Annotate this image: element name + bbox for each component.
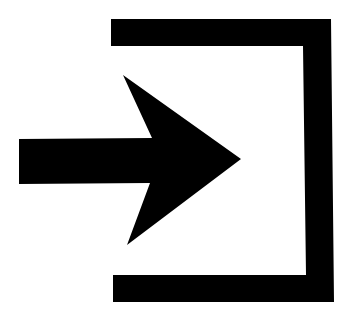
- arrow-shape: [19, 75, 241, 245]
- arrow-right-icon: [19, 75, 241, 245]
- login-icon: [0, 0, 356, 319]
